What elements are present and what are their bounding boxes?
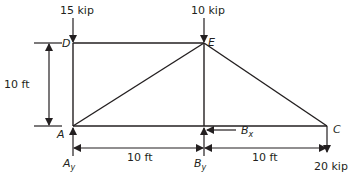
dim-label-AB: 10 ft bbox=[127, 152, 153, 163]
node-label-D: D bbox=[62, 38, 70, 49]
truss-drawing bbox=[0, 0, 362, 187]
member-EC bbox=[204, 43, 327, 126]
load-label-C: 20 kip bbox=[314, 161, 348, 172]
member-AE bbox=[73, 43, 204, 126]
node-label-A: A bbox=[57, 129, 65, 140]
reaction-label-Ay: Ay bbox=[63, 158, 75, 169]
dim-label-height: 10 ft bbox=[4, 79, 30, 90]
node-label-E: E bbox=[208, 37, 215, 48]
reaction-label-Bx: Bx bbox=[241, 125, 253, 136]
node-label-C: C bbox=[333, 124, 341, 135]
reaction-label-By: By bbox=[194, 158, 206, 169]
load-label-E: 10 kip bbox=[191, 5, 225, 16]
truss-diagram: 15 kip 10 kip 20 kip D E A C Ay By Bx 10… bbox=[0, 0, 362, 187]
dim-label-BC: 10 ft bbox=[252, 152, 278, 163]
load-label-D: 15 kip bbox=[60, 5, 94, 16]
